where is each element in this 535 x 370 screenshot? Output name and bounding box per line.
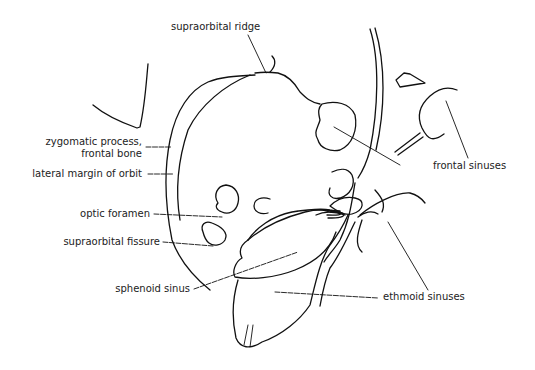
label-ethmoid-sinuses: ethmoid sinuses [383,291,465,303]
leader-sphenoid-sinus [194,252,298,289]
label-optic-foramen: optic foramen [40,208,150,220]
hatch-mark-1 [244,325,248,345]
leader-ethmoid-sinuses [275,292,378,298]
leader-supraorbital-ridge [248,35,266,73]
label-frontal-sinuses: frontal sinuses [433,160,506,172]
leader-supraorbital-fissure [163,242,213,246]
optic-foramen-ring [216,185,239,213]
sinus-wall-1 [324,183,355,262]
central-bone-shape [329,169,362,214]
label-lateral-margin-of-orbit: lateral margin of orbit [10,168,142,180]
zygoma-outline [93,64,148,128]
long-curve-outer [358,29,377,178]
supraorbital-ridge-curve [255,72,320,104]
label-supraorbital-fissure: supraorbital fissure [40,236,160,248]
leader-frontal-sinuses-b [446,101,468,158]
ethmoid-inner [357,220,362,252]
ridge-hook [270,56,275,72]
c-shaped-foramen [254,198,270,214]
label-supraorbital-ridge: supraorbital ridge [171,21,260,33]
supraorbital-fissure-ring [202,222,226,245]
leader-ethmoid-b [388,222,428,290]
frontal-sinus-right [419,88,457,139]
small-bone-fragment [396,73,425,87]
label-zygomatic-process-line1: zygomatic process, [20,136,142,148]
frontal-sinus-left [316,102,356,150]
label-sphenoid-sinus: sphenoid sinus [90,283,190,295]
anatomy-diagram: supraorbital ridge zygomatic process, fr… [0,0,535,370]
diagram-drawing [0,0,535,370]
leader-optic-foramen [154,214,222,217]
label-zygomatic-process-line2: frontal bone [20,148,142,160]
ethmoid-sinus-outline [233,215,348,347]
hatch-mark-2 [250,325,253,347]
